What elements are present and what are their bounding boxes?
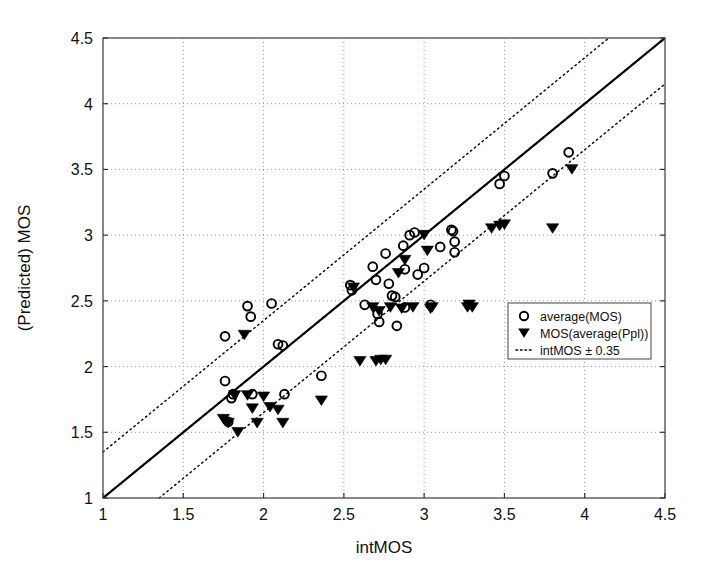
x-tick-label: 3.5 [493,506,515,523]
y-tick-label: 1 [84,490,93,507]
data-point-circle [436,243,445,252]
x-tick-label: 2 [259,506,268,523]
data-point-triangle [246,404,258,414]
data-point-circle [548,169,557,178]
y-tick-label: 3 [84,227,93,244]
data-point-circle [381,249,390,258]
y-tick-label: 3.5 [71,161,93,178]
figure-container: 11.522.533.544.511.522.533.544.5 average… [0,0,711,571]
data-point-triangle [272,405,284,415]
data-point-triangle [354,357,366,367]
legend-label: average(MOS) [540,310,622,324]
legend: average(MOS)MOS(average(Ppl))intMOS ± 0.… [508,303,651,359]
reference-line-identity [103,38,665,498]
data-point-circle [221,332,230,341]
x-tick-label: 4 [580,506,589,523]
data-points [217,148,578,437]
scatter-plot: 11.522.533.544.511.522.533.544.5 average… [0,0,711,571]
data-point-circle [221,377,230,386]
reference-lines [103,38,665,498]
data-point-circle [246,312,255,321]
y-tick-label: 4.5 [71,30,93,47]
data-point-circle [372,275,381,284]
data-point-circle [280,390,289,399]
data-point-circle [450,237,459,246]
data-point-triangle [421,246,433,256]
data-point-circle [420,264,429,273]
data-point-circle [317,371,326,380]
data-point-triangle [399,255,411,265]
x-tick-label: 2.5 [333,506,355,523]
reference-line-lower-tolerance [159,84,665,498]
data-point-circle [243,302,252,311]
y-tick-label: 1.5 [71,424,93,441]
y-tick-label: 2.5 [71,293,93,310]
x-tick-label: 1.5 [172,506,194,523]
legend-label: MOS(average(Ppl)) [540,327,648,341]
reference-line-upper-tolerance [103,38,609,452]
y-tick-label: 2 [84,359,93,376]
data-point-circle [500,172,509,181]
x-tick-label: 1 [99,506,108,523]
legend-label: intMOS ± 0.35 [540,344,620,358]
data-point-triangle [238,330,250,340]
data-point-circle [392,321,401,330]
data-point-circle [368,262,377,271]
x-tick-label: 4.5 [654,506,676,523]
data-point-circle [399,241,408,250]
data-point-triangle [229,391,241,401]
x-tick-label: 3 [420,506,429,523]
data-point-triangle [547,224,559,234]
y-tick-label: 4 [84,96,93,113]
data-point-triangle [251,418,263,428]
data-point-circle [450,248,459,257]
y-axis-title: (Predicted) MOS [15,205,34,332]
data-point-triangle [315,396,327,406]
data-point-circle [564,148,573,157]
data-point-circle [384,279,393,288]
data-point-triangle [232,427,244,437]
x-axis-title: intMOS [356,538,413,557]
data-point-triangle [384,303,396,313]
data-point-triangle [277,418,289,428]
data-point-triangle [257,392,269,402]
